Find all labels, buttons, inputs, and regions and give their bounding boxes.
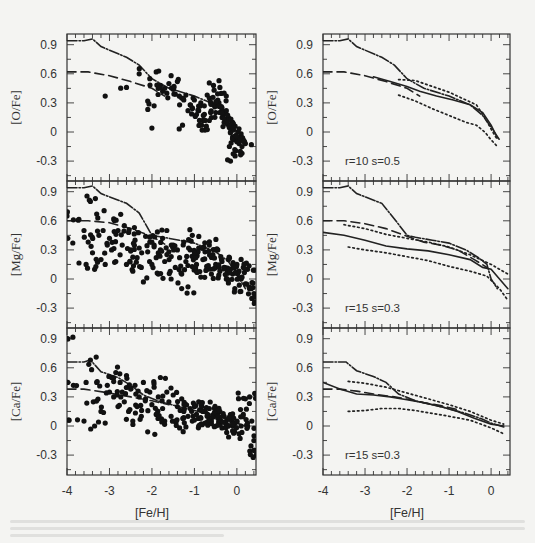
data-point xyxy=(152,103,157,108)
data-point xyxy=(112,260,117,265)
data-point xyxy=(176,77,181,82)
data-point xyxy=(207,80,212,85)
data-point xyxy=(217,414,222,419)
data-point xyxy=(94,355,99,360)
y-tick-label: 0.9 xyxy=(296,38,313,52)
y-tick-label: 0.6 xyxy=(296,361,313,375)
data-point xyxy=(235,277,240,282)
data-point xyxy=(162,86,167,91)
data-point xyxy=(99,404,104,409)
model-line-solid xyxy=(323,232,508,288)
x-tick-label: -3 xyxy=(360,484,371,498)
data-point xyxy=(166,399,171,404)
data-point xyxy=(86,362,91,367)
data-point xyxy=(247,401,252,406)
data-point xyxy=(65,380,70,385)
data-point xyxy=(97,383,102,388)
data-point xyxy=(124,376,129,381)
data-point xyxy=(251,426,256,431)
data-point xyxy=(238,407,243,412)
data-point xyxy=(178,270,183,275)
data-point xyxy=(133,410,138,415)
data-point xyxy=(236,391,241,396)
data-point xyxy=(202,103,207,108)
panel-right-bottom: 0.90.60.30-0.3[Ca/Fe]-4-3-2-10[Fe/H]r=15… xyxy=(264,328,510,520)
data-point xyxy=(206,249,211,254)
data-point xyxy=(250,281,255,286)
x-tick-label: -4 xyxy=(318,484,329,498)
data-point xyxy=(159,249,164,254)
y-tick-label: 0.9 xyxy=(40,185,57,199)
x-tick-label: 0 xyxy=(234,484,241,498)
data-point xyxy=(179,286,184,291)
y-axis-title: [Ca/Fe] xyxy=(264,382,279,422)
data-point xyxy=(147,76,152,81)
data-point xyxy=(65,336,70,341)
data-point xyxy=(123,391,128,396)
data-point xyxy=(229,140,234,145)
model-line-dotted-lower xyxy=(348,247,508,300)
data-point xyxy=(174,417,179,422)
data-point xyxy=(137,245,142,250)
data-point xyxy=(143,398,148,403)
data-point xyxy=(212,115,217,120)
data-point xyxy=(197,118,202,123)
data-point xyxy=(71,217,76,222)
data-point xyxy=(215,91,220,96)
data-point xyxy=(247,394,252,399)
x-tick-label: -2 xyxy=(147,484,158,498)
data-point xyxy=(185,291,190,296)
data-point xyxy=(84,401,89,406)
data-point xyxy=(216,423,221,428)
data-point xyxy=(118,394,123,399)
data-point xyxy=(118,86,123,91)
data-point xyxy=(232,289,237,294)
data-point xyxy=(138,403,143,408)
data-point xyxy=(216,262,221,267)
data-point xyxy=(141,380,146,385)
data-point xyxy=(170,419,175,424)
bleed-line xyxy=(10,520,525,523)
data-point xyxy=(252,268,257,273)
data-point xyxy=(241,139,246,144)
data-point xyxy=(82,235,87,240)
y-tick-label: 0.3 xyxy=(40,243,57,257)
data-point xyxy=(211,276,216,281)
data-point xyxy=(95,229,100,234)
data-point xyxy=(101,228,106,233)
data-point xyxy=(124,85,129,90)
data-point xyxy=(118,212,123,217)
data-point xyxy=(216,78,221,83)
data-point xyxy=(138,417,143,422)
data-point xyxy=(212,410,217,415)
data-point xyxy=(124,417,129,422)
y-tick-label: 0 xyxy=(50,125,57,139)
data-point xyxy=(137,264,142,269)
data-point xyxy=(234,419,239,424)
y-tick-label: 0.3 xyxy=(40,96,57,110)
data-point xyxy=(163,376,168,381)
data-point xyxy=(241,396,246,401)
data-point xyxy=(244,417,249,422)
data-point xyxy=(227,256,232,261)
data-point xyxy=(166,81,171,86)
data-point xyxy=(141,279,146,284)
data-point xyxy=(118,380,123,385)
y-tick-label: 0.9 xyxy=(296,332,313,346)
data-point xyxy=(238,152,243,157)
data-point xyxy=(160,276,165,281)
data-point xyxy=(224,430,229,435)
data-point xyxy=(177,255,182,260)
data-point xyxy=(212,266,217,271)
y-tick-label: 0.6 xyxy=(40,361,57,375)
data-point xyxy=(181,96,186,101)
data-point xyxy=(193,403,198,408)
data-point xyxy=(90,236,95,241)
data-point xyxy=(118,252,123,257)
data-point xyxy=(169,73,174,78)
data-point xyxy=(230,422,235,427)
data-point xyxy=(191,95,196,100)
data-point xyxy=(147,83,152,88)
figure-canvas: 0.90.60.30-0.3[O/Fe]0.90.60.30-0.3[O/Fe]… xyxy=(0,0,535,543)
data-point xyxy=(216,273,221,278)
